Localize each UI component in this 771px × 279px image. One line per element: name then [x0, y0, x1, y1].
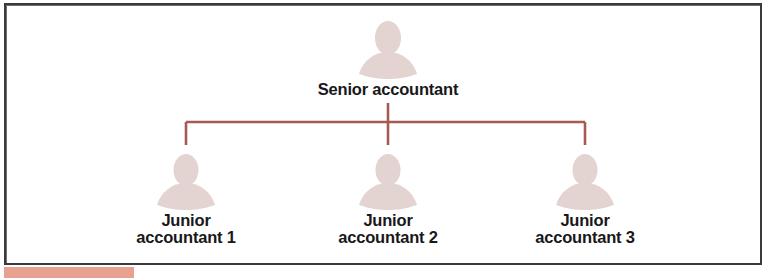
node-junior-accountant-1[interactable]: Junior accountant 1 [86, 152, 286, 247]
node-label-junior-accountant-3: Junior accountant 3 [485, 212, 685, 247]
org-chart-figure: Senior accountant Junior accountant 1 Ju… [0, 0, 771, 279]
node-label-junior-accountant-2: Junior accountant 2 [288, 212, 488, 247]
person-silhouette-icon [351, 18, 425, 80]
node-label-senior-accountant: Senior accountant [258, 81, 518, 98]
node-junior-accountant-3[interactable]: Junior accountant 3 [485, 152, 685, 247]
bottom-accent-bar [4, 267, 134, 278]
node-label-junior-accountant-1: Junior accountant 1 [86, 212, 286, 247]
node-senior-accountant[interactable]: Senior accountant [258, 18, 518, 98]
person-silhouette-icon [149, 152, 223, 210]
node-junior-accountant-2[interactable]: Junior accountant 2 [288, 152, 488, 247]
org-chart-canvas: Senior accountant Junior accountant 1 Ju… [0, 0, 771, 279]
person-silhouette-icon [351, 152, 425, 210]
person-silhouette-icon [548, 152, 622, 210]
